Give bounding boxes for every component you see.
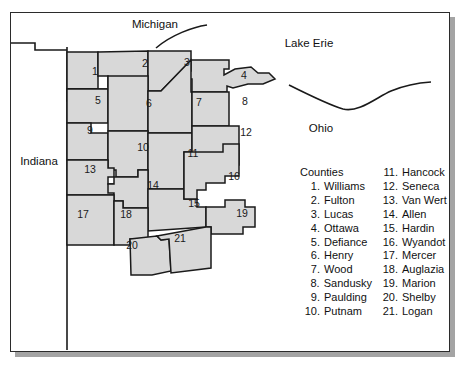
- legend-name-11: Hancock: [402, 166, 445, 180]
- legend-item-10: 10. Putnam: [300, 305, 372, 319]
- legend-name-20: Shelby: [402, 291, 436, 305]
- county-num-3: 3: [184, 56, 190, 68]
- label-indiana: Indiana: [20, 155, 58, 167]
- legend-num-20: 20.: [378, 291, 398, 305]
- county-num-2: 2: [142, 57, 148, 69]
- legend-name-9: Paulding: [324, 291, 367, 305]
- county-17-mercer[interactable]: [67, 195, 114, 245]
- legend-num-14: 14.: [378, 208, 398, 222]
- legend-name-17: Mercer: [402, 249, 436, 263]
- legend-item-4: 4. Ottawa: [300, 222, 372, 236]
- county-num-12: 12: [240, 126, 252, 138]
- legend-name-1: Williams: [324, 180, 365, 194]
- legend-num-18: 18.: [378, 263, 398, 277]
- legend-item-5: 5. Defiance: [300, 236, 372, 250]
- legend-item-3: 3. Lucas: [300, 208, 372, 222]
- legend-item-14: 14. Allen: [378, 208, 450, 222]
- legend-name-18: Auglazia: [402, 263, 444, 277]
- legend-item-21: 21. Logan: [378, 305, 450, 319]
- legend-num-13: 13.: [378, 194, 398, 208]
- legend: Counties 1. Williams 2. Fulton 3. Lucas …: [300, 166, 450, 319]
- county-num-20: 20: [126, 239, 138, 251]
- legend-num-10: 10.: [300, 305, 320, 319]
- legend-name-15: Hardin: [402, 222, 434, 236]
- county-num-4: 4: [241, 69, 247, 81]
- legend-name-16: Wyandot: [402, 236, 445, 250]
- label-ohio: Ohio: [309, 122, 333, 134]
- legend-name-12: Seneca: [402, 180, 439, 194]
- legend-name-5: Defiance: [324, 236, 367, 250]
- legend-name-10: Putnam: [324, 305, 362, 319]
- legend-num-21: 21.: [378, 305, 398, 319]
- label-michigan: Michigan: [132, 18, 178, 30]
- legend-name-8: Sandusky: [324, 277, 372, 291]
- county-num-5: 5: [95, 94, 101, 106]
- legend-num-4: 4.: [300, 222, 320, 236]
- michigan-state-line: [11, 43, 67, 50]
- county-num-8: 8: [242, 95, 248, 107]
- legend-item-20: 20. Shelby: [378, 291, 450, 305]
- legend-name-21: Logan: [402, 305, 433, 319]
- legend-item-17: 17. Mercer: [378, 249, 450, 263]
- legend-num-12: 12.: [378, 180, 398, 194]
- legend-name-4: Ottawa: [324, 222, 359, 236]
- legend-item-8: 8. Sandusky: [300, 277, 372, 291]
- legend-item-12: 12. Seneca: [378, 180, 450, 194]
- county-num-15: 15: [188, 197, 200, 209]
- legend-num-9: 9.: [300, 291, 320, 305]
- legend-num-5: 5.: [300, 236, 320, 250]
- county-num-16: 16: [228, 170, 240, 182]
- county-num-17: 17: [77, 208, 89, 220]
- legend-name-2: Fulton: [324, 194, 355, 208]
- county-map-figure: 1 2 3 4 5 6 7 8 9 10 11 12 13 14 15 16 1…: [0, 0, 468, 380]
- legend-item-6: 6. Henry: [300, 249, 372, 263]
- county-num-6: 6: [146, 97, 152, 109]
- label-lake-erie: Lake Erie: [285, 37, 334, 49]
- legend-name-14: Allen: [402, 208, 426, 222]
- legend-item-16: 16. Wyandot: [378, 236, 450, 250]
- county-num-11: 11: [188, 147, 199, 159]
- lake-erie-shoreline-east: [289, 82, 431, 110]
- county-num-1: 1: [92, 65, 98, 77]
- legend-title: Counties: [300, 166, 372, 180]
- legend-num-11: 11.: [378, 166, 398, 180]
- county-6-henry[interactable]: [108, 76, 148, 131]
- legend-num-16: 16.: [378, 236, 398, 250]
- legend-num-15: 15.: [378, 222, 398, 236]
- county-num-21: 21: [174, 232, 186, 244]
- legend-column-left: Counties 1. Williams 2. Fulton 3. Lucas …: [300, 166, 372, 319]
- legend-item-13: 13. Van Wert: [378, 194, 450, 208]
- legend-name-6: Henry: [324, 249, 353, 263]
- legend-num-7: 7.: [300, 263, 320, 277]
- county-5-defiance-body[interactable]: [67, 89, 108, 123]
- legend-name-3: Lucas: [324, 208, 353, 222]
- county-num-18: 18: [120, 208, 132, 220]
- county-num-10: 10: [137, 141, 149, 153]
- legend-num-6: 6.: [300, 249, 320, 263]
- legend-num-8: 8.: [300, 277, 320, 291]
- legend-item-11: 11. Hancock: [378, 166, 450, 180]
- legend-name-7: Wood: [324, 263, 353, 277]
- legend-name-13: Van Wert: [402, 194, 447, 208]
- legend-item-19: 19. Marion: [378, 277, 450, 291]
- legend-item-18: 18. Auglazia: [378, 263, 450, 277]
- county-num-19: 19: [236, 207, 248, 219]
- county-num-9: 9: [87, 124, 93, 136]
- county-polygons: [67, 51, 275, 275]
- legend-num-2: 2.: [300, 194, 320, 208]
- legend-num-1: 1.: [300, 180, 320, 194]
- county-num-13: 13: [84, 163, 96, 175]
- legend-num-3: 3.: [300, 208, 320, 222]
- legend-num-17: 17.: [378, 249, 398, 263]
- legend-item-9: 9. Paulding: [300, 291, 372, 305]
- county-num-14: 14: [147, 179, 159, 191]
- legend-item-7: 7. Wood: [300, 263, 372, 277]
- legend-column-right: 11. Hancock 12. Seneca 13. Van Wert 14. …: [378, 166, 450, 319]
- legend-item-15: 15. Hardin: [378, 222, 450, 236]
- county-num-7: 7: [196, 96, 202, 108]
- legend-item-2: 2. Fulton: [300, 194, 372, 208]
- legend-name-19: Marion: [402, 277, 436, 291]
- legend-item-1: 1. Williams: [300, 180, 372, 194]
- legend-num-19: 19.: [378, 277, 398, 291]
- county-4-ottawa[interactable]: [187, 60, 275, 92]
